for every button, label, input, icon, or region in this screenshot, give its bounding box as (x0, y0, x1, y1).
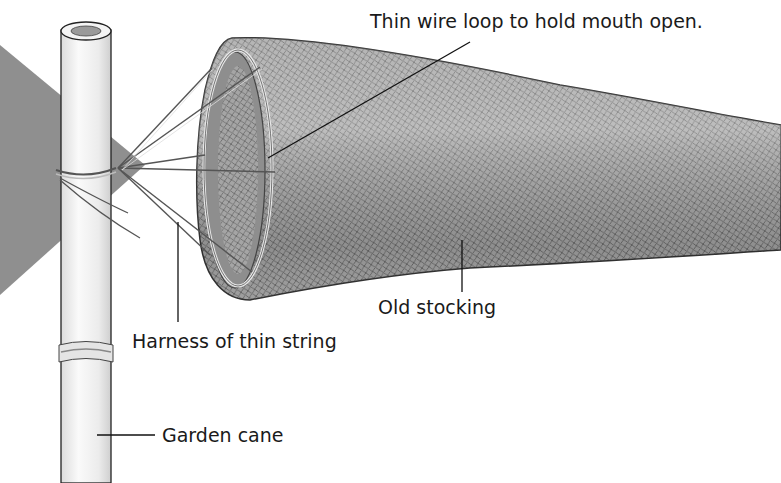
label-garden-cane: Garden cane (162, 426, 284, 445)
stocking (197, 38, 781, 300)
diagram: Thin wire loop to hold mouth open. Old s… (0, 0, 781, 483)
label-harness: Harness of thin string (132, 332, 337, 351)
windsock-illustration (0, 0, 781, 483)
label-wire-loop: Thin wire loop to hold mouth open. (370, 12, 703, 31)
garden-cane (56, 22, 140, 483)
label-stocking: Old stocking (378, 298, 496, 317)
